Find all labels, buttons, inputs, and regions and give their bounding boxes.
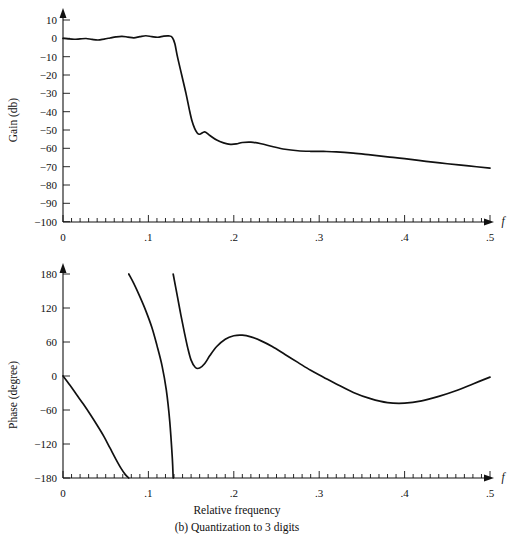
phase-ytick-4: −60 [40,404,58,416]
gain-curve-line [63,36,490,168]
gain-x-tick-labels: 0 .1 .2 .3 .4 .5 [60,231,494,243]
gain-xtick-3: .3 [315,231,324,243]
gain-ytick-6: −50 [40,124,58,136]
gain-ytick-11: −100 [34,216,57,228]
gain-xtick-2: .2 [230,231,238,243]
phase-curve-branch-2 [129,274,173,478]
shared-xlabel: Relative frequency [193,504,280,517]
gain-ytick-0: 10 [46,14,58,26]
phase-xtick-5: .5 [486,487,495,499]
phase-xtick-4: .4 [400,487,409,499]
phase-ytick-6: −180 [34,472,57,484]
phase-y-axis [60,263,67,478]
figure-caption: (b) Quantization to 3 digits [175,521,300,534]
gain-ytick-3: −20 [40,69,58,81]
gain-ytick-4: −30 [40,87,58,99]
phase-y-axis-arrow [60,263,67,273]
gain-y-ticks [63,20,70,222]
phase-y-axis-title: Phase (degree) [7,361,20,429]
phase-xtick-0: 0 [60,487,66,499]
phase-ytick-1: 120 [41,302,58,314]
gain-ytick-1: 0 [52,32,58,44]
gain-y-tick-labels: 10 0 −10 −20 −30 −40 −50 −60 −70 −80 −90… [34,14,57,228]
gain-ytick-10: −90 [40,197,58,209]
gain-x-axis [63,219,494,226]
phase-ytick-2: 60 [46,336,58,348]
figure-container: 10 0 −10 −20 −30 −40 −50 −60 −70 −80 −90… [0,0,516,545]
gain-ytick-9: −80 [40,179,58,191]
phase-ytick-0: 180 [41,268,58,280]
gain-x-axis-arrow [484,219,494,226]
figure-svg: 10 0 −10 −20 −30 −40 −50 −60 −70 −80 −90… [0,0,516,545]
gain-ytick-2: −10 [40,51,58,63]
gain-xtick-4: .4 [400,231,409,243]
phase-y-tick-labels: 180 120 60 0 −60 −120 −180 [34,268,57,484]
gain-xtick-0: 0 [60,231,66,243]
phase-panel: 180 120 60 0 −60 −120 −180 0 .1 .2 .3 .4… [7,263,506,499]
gain-y-axis-arrow [60,8,67,18]
phase-xtick-3: .3 [315,487,324,499]
gain-x-axis-symbol: f [501,215,506,228]
gain-xtick-5: .5 [486,231,495,243]
gain-panel: 10 0 −10 −20 −30 −40 −50 −60 −70 −80 −90… [7,8,506,243]
gain-y-axis-title: Gain (db) [7,98,20,143]
gain-ytick-8: −70 [40,161,58,173]
phase-x-tick-labels: 0 .1 .2 .3 .4 .5 [60,487,494,499]
phase-xtick-1: .1 [144,487,152,499]
phase-ytick-3: 0 [52,370,58,382]
gain-xtick-1: .1 [144,231,152,243]
gain-ytick-5: −40 [40,106,58,118]
phase-xtick-2: .2 [230,487,238,499]
phase-ytick-5: −120 [34,438,57,450]
phase-x-axis-symbol: f [501,471,506,484]
phase-curve-branch-1 [63,376,129,478]
phase-x-axis-arrow [484,475,494,482]
gain-ytick-7: −60 [40,142,58,154]
phase-curve-branch-3 [173,274,490,403]
gain-y-axis [60,8,67,222]
gain-x-ticks [63,215,490,222]
